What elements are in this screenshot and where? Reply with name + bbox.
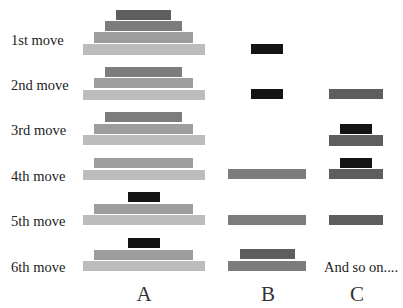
disc-disc-1-move-2-peg-c — [329, 89, 383, 99]
disc-disc-3-move-3-peg-a — [94, 124, 193, 134]
disc-disc-1-move-1-peg-a — [116, 10, 171, 20]
disc-disc-2-move-2-peg-a — [105, 67, 182, 77]
disc-disc-1-move-4-peg-c — [329, 169, 383, 179]
move-label-6: 6th move — [11, 260, 65, 275]
disc-disc-2-move-4-peg-b — [228, 169, 306, 179]
disc-disc-1-move-5-peg-c — [329, 215, 383, 225]
disc-disc-black-move-6-peg-a — [128, 238, 160, 248]
disc-disc-black-move-1-peg-b — [251, 44, 283, 54]
disc-disc-3-move-4-peg-a — [94, 158, 193, 168]
peg-label-c: C — [350, 284, 364, 305]
disc-disc-4-move-3-peg-a — [83, 135, 205, 145]
disc-disc-2-move-1-peg-a — [105, 21, 182, 31]
disc-disc-4-move-6-peg-a — [83, 261, 205, 271]
disc-disc-1-move-3-peg-c — [329, 135, 383, 146]
disc-disc-4-move-2-peg-a — [83, 90, 205, 100]
disc-disc-black-move-5-peg-a — [128, 192, 160, 202]
disc-disc-4-move-4-peg-a — [83, 170, 205, 180]
disc-disc-2-move-6-peg-b — [228, 261, 306, 271]
move-label-5: 5th move — [11, 214, 65, 229]
move-label-4: 4th move — [11, 169, 65, 184]
disc-disc-2-move-3-peg-a — [105, 112, 182, 122]
disc-disc-4-move-5-peg-a — [83, 215, 205, 225]
and-so-on-note: And so on.... — [324, 260, 398, 275]
disc-disc-black-move-3-peg-c — [340, 124, 372, 134]
tower-of-hanoi-diagram: 1st move 2nd move 3rd move 4th move 5th … — [0, 0, 403, 308]
move-label-3: 3rd move — [11, 123, 66, 138]
move-label-1: 1st move — [11, 33, 64, 48]
disc-disc-black-move-4-peg-c — [340, 158, 372, 168]
peg-label-b: B — [261, 284, 275, 305]
peg-label-a: A — [136, 284, 151, 305]
disc-disc-1-move-6-peg-b — [240, 249, 295, 259]
disc-disc-2-move-5-peg-b — [228, 215, 306, 225]
disc-disc-black-move-2-peg-b — [251, 89, 283, 99]
disc-disc-3-move-2-peg-a — [94, 78, 193, 88]
disc-disc-3-move-1-peg-a — [94, 32, 193, 43]
disc-disc-3-move-5-peg-a — [94, 204, 193, 214]
move-label-2: 2nd move — [11, 78, 69, 93]
disc-disc-3-move-6-peg-a — [94, 250, 193, 260]
disc-disc-4-move-1-peg-a — [83, 44, 205, 55]
